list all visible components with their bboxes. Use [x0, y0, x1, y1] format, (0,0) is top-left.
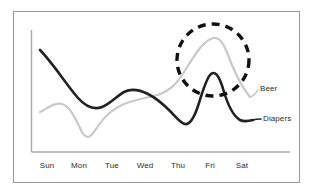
- x-tick-label-wed: Wed: [137, 161, 154, 170]
- series-label-diapers: Diapers: [263, 114, 291, 123]
- x-tick-label-fri: Fri: [205, 161, 215, 170]
- series-label-beer: Beer: [260, 84, 277, 93]
- highlight-ellipse-annotation: [177, 24, 249, 96]
- beer-label-leader: [250, 90, 258, 97]
- x-tick-label-tue: Tue: [105, 161, 119, 170]
- x-tick-label-mon: Mon: [71, 161, 87, 170]
- diapers-label-leader: [253, 119, 261, 120]
- chart-screenshot: Sun Mon Tue Wed Thu Fri Sat Beer Diapers: [0, 0, 318, 196]
- x-tick-label-sat: Sat: [236, 161, 248, 170]
- series-line-beer: [40, 38, 250, 137]
- x-tick-label-sun: Sun: [40, 161, 55, 170]
- x-tick-label-thu: Thu: [171, 161, 185, 170]
